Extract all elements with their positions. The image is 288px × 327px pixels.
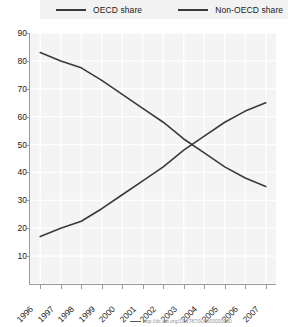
x-tick-mark — [81, 285, 82, 289]
x-tick-mark — [122, 285, 123, 289]
x-tick-mark — [225, 285, 226, 289]
legend-entry-non-oecd-share: Non-OECD share — [178, 5, 283, 15]
y-tick-mark — [25, 33, 29, 34]
y-tick-mark — [25, 145, 29, 146]
y-tick-mark — [25, 228, 29, 229]
legend-line-icon-oecd-share — [56, 9, 86, 11]
x-tick-mark — [204, 285, 205, 289]
legend-label-non-oecd-share: Non-OECD share — [215, 5, 283, 15]
legend-line-icon-non-oecd-share — [178, 9, 208, 11]
x-tick-label: 1998 — [56, 304, 76, 324]
x-tick-mark — [184, 285, 185, 289]
legend-label-oecd-share: OECD share — [93, 5, 142, 15]
series-line-non-oecd-share — [40, 103, 266, 237]
x-tick-mark — [245, 285, 246, 289]
y-tick-mark — [25, 89, 29, 90]
x-axis-line — [29, 284, 276, 285]
chart-figure: OECD share Non-OECD share 10203040506070… — [0, 0, 288, 327]
source-caption: http://dx.doi.org/10.1787/000000000000 — [128, 318, 288, 327]
y-tick-mark — [25, 200, 29, 201]
x-tick-mark — [163, 285, 164, 289]
y-tick-mark — [25, 61, 29, 62]
x-tick-mark — [61, 285, 62, 289]
series-line-oecd-share — [40, 53, 266, 187]
x-tick-mark — [143, 285, 144, 289]
y-tick-mark — [25, 256, 29, 257]
x-tick-mark — [40, 285, 41, 289]
x-tick-label: 1996 — [15, 304, 35, 324]
y-axis-labels: 102030405060708090 — [0, 33, 27, 284]
y-tick-mark — [25, 172, 29, 173]
x-tick-label: 2000 — [97, 304, 117, 324]
x-tick-label: 1999 — [76, 304, 96, 324]
x-tick-mark — [266, 285, 267, 289]
caption-text: http://dx.doi.org/10.1787/000000000000 — [143, 318, 232, 324]
plot-area — [30, 33, 276, 284]
y-tick-mark — [25, 117, 29, 118]
gridlines — [30, 33, 276, 284]
plot-svg — [30, 33, 276, 284]
chart-legend: OECD share Non-OECD share — [40, 0, 288, 19]
caption-rule-icon — [130, 321, 141, 322]
x-tick-mark — [102, 285, 103, 289]
x-tick-label: 1997 — [35, 304, 55, 324]
legend-entry-oecd-share: OECD share — [56, 5, 142, 15]
